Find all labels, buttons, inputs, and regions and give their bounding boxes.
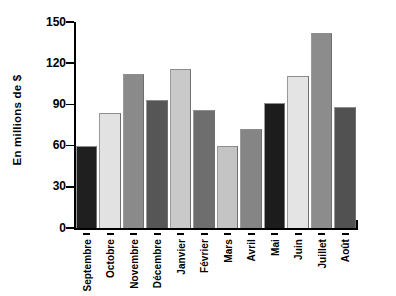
y-axis-tick-label: 30	[53, 180, 66, 192]
plot-area: 0306090120150	[74, 22, 358, 228]
x-axis-line	[74, 228, 358, 230]
bar	[193, 110, 215, 228]
bar	[287, 76, 309, 228]
x-axis-tick	[107, 233, 114, 235]
y-axis-tick-label: 120	[46, 57, 66, 69]
bar	[217, 146, 239, 228]
bars-layer	[76, 22, 358, 228]
x-axis-tick	[154, 233, 161, 235]
y-axis-tick-label: 60	[53, 139, 66, 151]
x-axis-tick-label: Juin	[287, 239, 309, 296]
x-axis-tick-label: Mars	[217, 239, 239, 296]
x-axis-tick	[248, 233, 255, 235]
y-axis-tick	[66, 62, 74, 64]
x-axis-tick-label: Mai	[264, 239, 286, 296]
y-axis-tick	[66, 227, 74, 229]
x-axis-tick-label-text: Janvier	[175, 239, 186, 275]
y-axis-tick-label: 150	[46, 16, 66, 28]
x-axis-tick-label-text: Octobre	[105, 239, 116, 278]
x-axis-tick-label: Juillet	[311, 239, 333, 296]
x-axis-tick	[130, 233, 137, 235]
x-axis-tick-label-text: Septembre	[81, 239, 92, 292]
x-axis-tick-label: Août	[334, 239, 356, 296]
bar	[334, 107, 356, 228]
x-axis-tick	[271, 233, 278, 235]
y-axis-title-label: En millions de $	[11, 75, 23, 166]
x-axis-tick	[177, 233, 184, 235]
x-axis-tick-label-text: Juin	[293, 239, 304, 260]
x-axis-tick-label: Février	[193, 239, 215, 296]
x-axis-tick-label: Octobre	[99, 239, 121, 296]
x-axis-tick	[318, 233, 325, 235]
x-axis-tick	[83, 233, 90, 235]
y-axis-tick	[66, 21, 74, 23]
x-axis-tick-label-text: Novembre	[128, 239, 139, 289]
x-axis-tick-label: Janvier	[170, 239, 192, 296]
x-axis-tick-label-text: Février	[199, 239, 210, 273]
x-axis-tick-label-text: Avril	[246, 239, 257, 261]
x-axis-tick-label: Décembre	[146, 239, 168, 296]
x-axis-tick-label: Novembre	[123, 239, 145, 296]
x-axis-tick	[342, 233, 349, 235]
x-axis-tick-label-text: Décembre	[152, 239, 163, 288]
y-axis-tick-label: 90	[53, 98, 66, 110]
bar	[99, 113, 121, 228]
y-axis-tick-labels: 0306090120150	[26, 22, 66, 228]
bar	[264, 103, 286, 228]
bar-chart-figure: En millions de $ 0306090120150 Septembre…	[0, 0, 396, 296]
bar	[170, 69, 192, 228]
bar	[240, 129, 262, 228]
x-axis-tick-label: Avril	[240, 239, 262, 296]
x-axis-tick-label-text: Juillet	[316, 239, 327, 269]
x-axis-tick	[201, 233, 208, 235]
bar	[123, 74, 145, 228]
bar	[311, 33, 333, 228]
x-axis-tick-labels: SeptembreOctobreNovembreDécembreJanvierF…	[76, 239, 358, 296]
x-axis-tick-label-text: Août	[340, 239, 351, 262]
y-axis-tick-label: 0	[59, 222, 66, 234]
x-axis-tick	[295, 233, 302, 235]
x-axis-tick	[224, 233, 231, 235]
x-axis-tick-label-text: Mars	[222, 239, 233, 263]
y-axis-tick	[66, 145, 74, 147]
bar	[76, 146, 98, 228]
x-axis-tick-label: Septembre	[76, 239, 98, 296]
y-axis-tick	[66, 104, 74, 106]
x-axis-tick-label-text: Mai	[269, 239, 280, 256]
y-axis-tick	[66, 186, 74, 188]
bar	[146, 100, 168, 228]
